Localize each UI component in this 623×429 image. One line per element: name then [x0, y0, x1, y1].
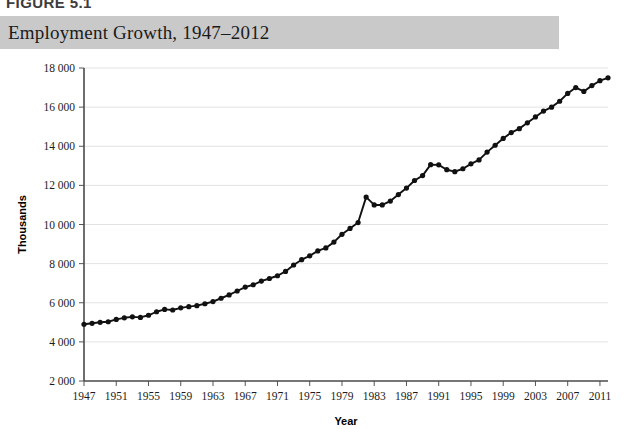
chart-y-axis-ticks: 2 0004 0006 0008 00010 00012 00014 00016… [43, 62, 84, 387]
svg-text:1975: 1975 [298, 390, 321, 402]
svg-text:18 000: 18 000 [43, 62, 75, 74]
svg-text:2007: 2007 [556, 390, 579, 402]
x-axis-title: Year [334, 415, 358, 427]
svg-text:2011: 2011 [589, 390, 612, 402]
svg-text:8 000: 8 000 [49, 258, 75, 270]
employment-line-chart: 2 0004 0006 0008 00010 00012 00014 00016… [0, 52, 623, 429]
svg-text:1979: 1979 [330, 390, 353, 402]
svg-text:1983: 1983 [363, 390, 386, 402]
svg-text:1971: 1971 [266, 390, 289, 402]
chart-gridlines [84, 68, 608, 342]
svg-text:1951: 1951 [105, 390, 128, 402]
svg-text:2003: 2003 [524, 390, 547, 402]
svg-text:1959: 1959 [169, 390, 192, 402]
svg-text:12 000: 12 000 [43, 179, 75, 191]
svg-text:1967: 1967 [234, 390, 257, 402]
figure-title: Employment Growth, 1947–2012 [8, 20, 270, 46]
svg-text:4 000: 4 000 [49, 336, 75, 348]
chart-plot-area: 2 0004 0006 0008 00010 00012 00014 00016… [0, 52, 623, 429]
figure-number: FIGURE 5.1 [6, 0, 92, 11]
svg-text:1995: 1995 [459, 390, 482, 402]
svg-text:1955: 1955 [137, 390, 160, 402]
svg-text:1963: 1963 [201, 390, 224, 402]
svg-text:1999: 1999 [492, 390, 515, 402]
figure-container: FIGURE 5.1 Employment Growth, 1947–2012 … [0, 0, 623, 429]
svg-text:1987: 1987 [395, 390, 418, 402]
y-axis-title: Thousands [16, 195, 28, 254]
svg-text:16 000: 16 000 [43, 101, 75, 113]
chart-data-points [81, 75, 610, 327]
chart-data-line [84, 78, 608, 324]
svg-text:2 000: 2 000 [49, 375, 75, 387]
svg-text:14 000: 14 000 [43, 140, 75, 152]
svg-text:6 000: 6 000 [49, 297, 75, 309]
svg-text:1947: 1947 [73, 390, 96, 402]
svg-text:10 000: 10 000 [43, 219, 75, 231]
chart-x-axis-ticks: 1947195119551959196319671971197519791983… [73, 381, 612, 402]
svg-text:1991: 1991 [427, 390, 450, 402]
